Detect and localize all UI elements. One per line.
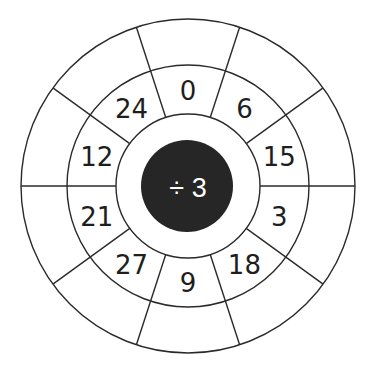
ring-number-bottom-left: 27: [115, 250, 148, 280]
ring-number-top-left: 24: [115, 94, 148, 124]
ring-number-bottom: 9: [180, 268, 197, 298]
ring-number-bottom-right: 18: [228, 250, 261, 280]
ring-number-right-lower: 3: [271, 202, 288, 232]
answer-cell-top[interactable]: [136, 19, 239, 71]
ring-number-top-right: 6: [236, 94, 253, 124]
division-wheel: ÷ 3 0 6 15 3 18 9 27 21 12 24: [0, 0, 371, 377]
ring-number-top: 0: [180, 76, 197, 106]
operation-hub: ÷ 3: [141, 140, 233, 232]
ring-number-left-upper: 12: [80, 142, 113, 172]
ring-number-left-lower: 21: [80, 202, 113, 232]
answer-cell-bottom[interactable]: [136, 301, 239, 353]
operation-label: ÷ 3: [169, 173, 206, 203]
ring-number-right-upper: 15: [263, 142, 296, 172]
